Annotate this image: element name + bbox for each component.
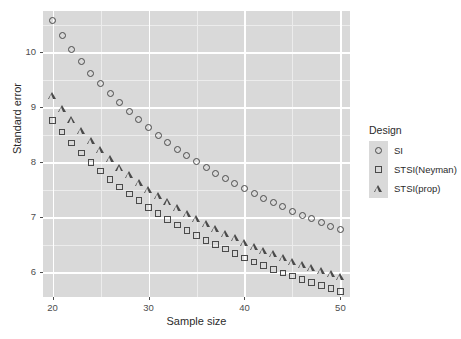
y-axis-tick-label: 9	[0, 101, 36, 112]
triangle-inner-fill	[193, 217, 197, 222]
data-point-triangle-icon	[192, 215, 200, 222]
triangle-inner-fill	[165, 200, 169, 205]
legend-item-label: STSI(prop)	[394, 183, 440, 194]
triangle-inner-fill	[260, 249, 264, 254]
legend-item-stsi-neyman[interactable]: STSI(Neyman)	[369, 160, 457, 179]
data-point-triangle-icon	[250, 243, 258, 250]
data-point-triangle-icon	[269, 250, 277, 257]
data-point-triangle-icon	[202, 220, 210, 227]
data-point-triangle-icon	[87, 137, 95, 144]
x-axis-tick-label: 50	[320, 302, 360, 313]
scatter-plot-figure: Standard error Sample size Design SISTSI…	[0, 0, 461, 339]
x-axis-tick-mark	[244, 297, 245, 300]
triangle-inner-fill	[97, 148, 101, 153]
legend-items: SISTSI(Neyman)STSI(prop)	[369, 141, 457, 198]
x-axis-tick-mark	[149, 297, 150, 300]
triangle-inner-fill	[232, 236, 236, 241]
y-axis-tick-mark	[40, 52, 43, 53]
legend: Design SISTSI(Neyman)STSI(prop)	[369, 124, 457, 198]
triangle-inner-fill	[375, 187, 379, 192]
data-point-triangle-icon	[298, 261, 306, 268]
y-axis-tick-mark	[40, 107, 43, 108]
data-point-triangle-icon	[135, 179, 143, 186]
data-point-triangle-icon	[173, 204, 181, 211]
data-point-triangle-icon	[48, 92, 56, 99]
legend-item-si[interactable]: SI	[369, 141, 457, 160]
triangle-inner-fill	[136, 181, 140, 186]
data-point-triangle-icon	[374, 185, 382, 192]
x-axis-tick-mark	[53, 297, 54, 300]
y-axis-tick-label: 7	[0, 211, 36, 222]
data-point-triangle-icon	[58, 105, 66, 112]
data-point-triangle-icon	[77, 127, 85, 134]
triangle-inner-fill	[59, 107, 63, 112]
legend-title: Design	[369, 124, 457, 136]
triangle-inner-fill	[337, 275, 341, 280]
triangle-inner-fill	[203, 222, 207, 227]
triangle-inner-fill	[88, 139, 92, 144]
y-axis-tick-label: 8	[0, 156, 36, 167]
triangle-inner-fill	[241, 241, 245, 246]
data-point-triangle-icon	[231, 234, 239, 241]
triangle-inner-fill	[69, 118, 73, 123]
triangle-inner-fill	[78, 129, 82, 134]
data-point-triangle-icon	[327, 270, 335, 277]
data-point-triangle-icon	[115, 164, 123, 171]
legend-item-stsi-prop[interactable]: STSI(prop)	[369, 179, 457, 198]
y-axis-tick-mark	[40, 272, 43, 273]
legend-item-label: STSI(Neyman)	[394, 164, 457, 175]
triangle-inner-fill	[117, 166, 121, 171]
triangle-inner-fill	[308, 266, 312, 271]
data-point-triangle-icon	[183, 210, 191, 217]
x-axis-tick-label: 20	[33, 302, 73, 313]
x-axis-tick-label: 30	[129, 302, 169, 313]
triangle-inner-fill	[270, 252, 274, 257]
triangle-inner-fill	[222, 232, 226, 237]
triangle-inner-fill	[328, 272, 332, 277]
data-point-triangle-icon	[125, 171, 133, 178]
legend-item-label: SI	[394, 145, 403, 156]
y-axis-tick-mark	[40, 217, 43, 218]
data-point-circle-icon	[375, 147, 382, 154]
data-point-triangle-icon	[154, 192, 162, 199]
triangle-inner-fill	[280, 256, 284, 261]
y-axis-tick-mark	[40, 162, 43, 163]
triangle-inner-fill	[126, 173, 130, 178]
data-point-triangle-icon	[259, 247, 267, 254]
triangle-inner-fill	[212, 227, 216, 232]
triangle-inner-fill	[174, 206, 178, 211]
data-point-triangle-icon	[144, 186, 152, 193]
x-axis-label: Sample size	[0, 315, 393, 327]
data-point-triangle-icon	[307, 264, 315, 271]
triangle-inner-fill	[251, 245, 255, 250]
legend-key-swatch	[369, 179, 388, 198]
data-point-triangle-icon	[240, 239, 248, 246]
data-point-triangle-icon	[163, 198, 171, 205]
series-stsi-prop	[43, 11, 350, 297]
x-axis-tick-label: 40	[224, 302, 264, 313]
y-axis-tick-label: 10	[0, 46, 36, 57]
data-point-square-icon	[375, 166, 382, 173]
data-point-triangle-icon	[317, 267, 325, 274]
y-axis-tick-label: 6	[0, 266, 36, 277]
y-axis-label: Standard error	[11, 83, 23, 154]
legend-key-swatch	[369, 141, 388, 160]
triangle-inner-fill	[145, 188, 149, 193]
data-point-triangle-icon	[279, 254, 287, 261]
data-point-triangle-icon	[67, 116, 75, 123]
x-axis-tick-mark	[340, 297, 341, 300]
triangle-inner-fill	[107, 157, 111, 162]
data-point-triangle-icon	[96, 146, 104, 153]
triangle-inner-fill	[318, 269, 322, 274]
data-point-triangle-icon	[336, 273, 344, 280]
triangle-inner-fill	[299, 263, 303, 268]
triangle-inner-fill	[184, 212, 188, 217]
data-point-triangle-icon	[288, 258, 296, 265]
data-point-triangle-icon	[221, 230, 229, 237]
triangle-inner-fill	[49, 94, 53, 99]
legend-key-swatch	[369, 160, 388, 179]
data-point-triangle-icon	[211, 225, 219, 232]
triangle-inner-fill	[289, 260, 293, 265]
plot-panel	[43, 11, 350, 297]
data-point-triangle-icon	[106, 155, 114, 162]
